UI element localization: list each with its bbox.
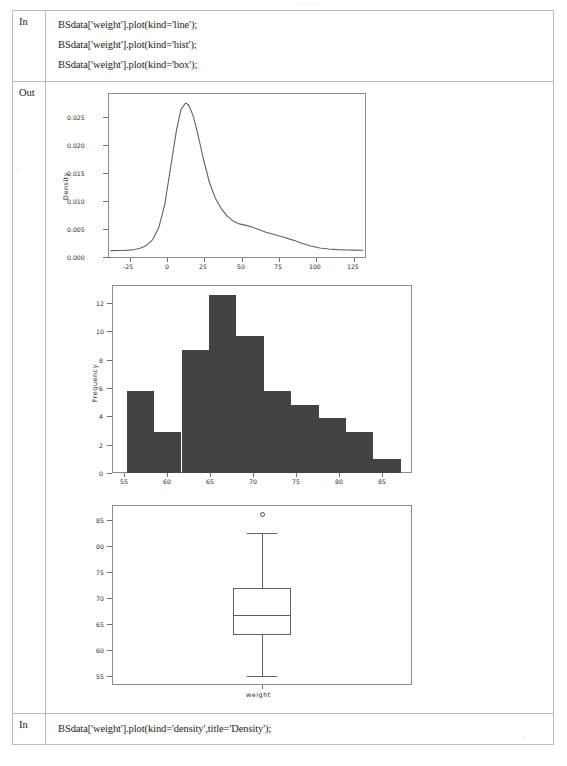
notebook-row-out: Out 0.000 0.005 0.010 0.015 0.020 — [13, 81, 553, 713]
y-tick-mark — [107, 572, 112, 573]
x-tick-mark — [124, 473, 125, 477]
y-tick-mark — [107, 520, 112, 521]
y-tick-label: 4 — [99, 413, 103, 420]
histogram-bar — [236, 336, 263, 473]
x-tick-mark — [296, 473, 297, 477]
histogram-bar — [346, 432, 373, 473]
y-tick-label: 8 — [99, 357, 103, 364]
y-tick-label: 6 — [99, 385, 103, 392]
x-tick-mark — [210, 473, 211, 477]
output-cell: 0.000 0.005 0.010 0.015 0.020 0.025 Dens… — [46, 82, 553, 713]
y-tick-label: 55 — [96, 673, 104, 680]
code-line: BSdata['weight'].plot(kind='density',tit… — [58, 719, 553, 739]
histogram-bar — [319, 418, 346, 473]
histogram-bar — [154, 432, 181, 473]
density-curve — [46, 88, 386, 266]
x-tick-label: 70 — [249, 478, 257, 485]
y-tick-mark — [107, 546, 112, 547]
x-tick-mark — [262, 685, 263, 689]
y-tick-mark — [107, 624, 112, 625]
y-tick-mark — [107, 676, 112, 677]
x-tick-mark — [382, 473, 383, 477]
figure-histogram: 0 2 4 6 8 10 12 Frequency — [46, 280, 553, 488]
y-tick-label: 12 — [96, 300, 104, 307]
y-tick-mark — [107, 303, 112, 304]
code-cell-1[interactable]: BSdata['weight'].plot(kind='line'); BSda… — [46, 11, 553, 81]
x-tick-label: 65 — [206, 478, 214, 485]
y-tick-mark — [107, 331, 112, 332]
boxplot-outlier — [260, 512, 265, 517]
y-tick-label: 70 — [96, 595, 104, 602]
y-tick-mark — [107, 650, 112, 651]
x-tick-label: 60 — [163, 478, 171, 485]
x-axis-title: weight — [246, 691, 271, 699]
y-tick-mark — [107, 445, 112, 446]
histogram-bar — [291, 405, 318, 474]
y-tick-mark — [107, 473, 112, 474]
y-tick-mark — [107, 416, 112, 417]
boxplot-cap-upper — [247, 533, 277, 534]
y-tick-label: 10 — [96, 328, 104, 335]
y-tick-mark — [107, 598, 112, 599]
code-line: BSdata['weight'].plot(kind='box'); — [58, 55, 553, 75]
notebook-table: In BSdata['weight'].plot(kind='line'); B… — [12, 10, 554, 745]
histogram-bar — [373, 459, 400, 473]
y-tick-label: 80 — [96, 543, 104, 550]
scan-speckle — [296, 4, 318, 5]
x-tick-mark — [339, 473, 340, 477]
notebook-row-in-1: In BSdata['weight'].plot(kind='line'); B… — [13, 11, 553, 81]
y-tick-label: 0 — [99, 470, 103, 477]
boxplot-median — [233, 615, 291, 616]
x-tick-mark — [167, 473, 168, 477]
x-tick-label: 55 — [120, 478, 128, 485]
x-tick-label: 80 — [335, 478, 343, 485]
x-tick-label: 85 — [378, 478, 386, 485]
cell-gutter-label: In — [13, 11, 46, 81]
code-line: BSdata['weight'].plot(kind='hist'); — [58, 35, 553, 55]
boxplot-box — [233, 588, 291, 635]
figure-boxplot: 55 60 65 70 75 80 85 — [46, 500, 553, 705]
x-tick-mark — [253, 473, 254, 477]
cell-gutter-label: In — [13, 714, 46, 744]
scanned-page: In BSdata['weight'].plot(kind='line'); B… — [0, 0, 567, 766]
boxplot-whisker-lower — [262, 635, 263, 676]
y-tick-mark — [107, 388, 112, 389]
y-tick-label: 75 — [96, 569, 104, 576]
y-tick-mark — [107, 360, 112, 361]
histogram-bar — [127, 391, 154, 473]
cell-gutter-label: Out — [13, 82, 46, 713]
boxplot-whisker-upper — [262, 533, 263, 588]
code-line: BSdata['weight'].plot(kind='line'); — [58, 15, 553, 35]
histogram-bar — [264, 391, 291, 473]
y-axis-title: Frequency — [91, 364, 99, 402]
code-cell-2[interactable]: BSdata['weight'].plot(kind='density',tit… — [46, 714, 553, 744]
histogram-bar — [182, 350, 209, 473]
x-tick-label: 75 — [292, 478, 300, 485]
y-tick-label: 65 — [96, 621, 104, 628]
figure-density-line: 0.000 0.005 0.010 0.015 0.020 0.025 Dens… — [46, 88, 553, 266]
histogram-bars — [113, 286, 411, 473]
boxplot-cap-lower — [247, 676, 277, 677]
notebook-row-in-2: In BSdata['weight'].plot(kind='density',… — [13, 713, 553, 744]
histogram-bar — [209, 295, 236, 473]
y-tick-label: 2 — [99, 442, 103, 449]
y-tick-label: 60 — [96, 647, 104, 654]
y-tick-label: 85 — [96, 517, 104, 524]
